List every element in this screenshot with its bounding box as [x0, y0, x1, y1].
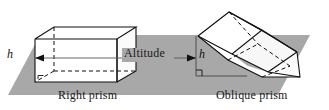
- right-prism-caption: Right prism: [58, 88, 117, 103]
- right-prism-front-face: [35, 39, 117, 82]
- right-prism: [35, 27, 136, 82]
- oblique-prism-caption: Oblique prism: [216, 88, 288, 103]
- height-label-left: h: [7, 47, 13, 62]
- prism-comparison-figure: h h Altitude Right prism Oblique prism: [0, 0, 329, 110]
- height-label-right: h: [199, 47, 205, 62]
- altitude-label: Altitude: [124, 46, 165, 61]
